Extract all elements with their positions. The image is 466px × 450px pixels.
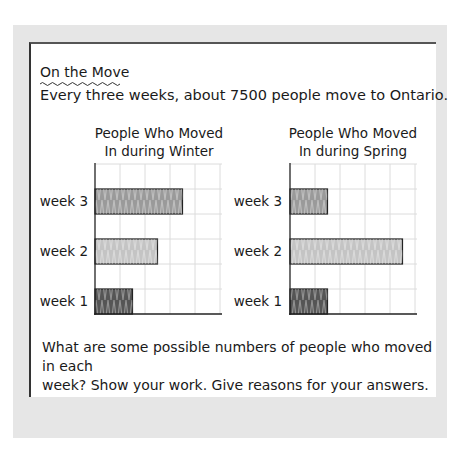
spring-bar-week1 — [290, 289, 328, 314]
winter-bar-week1 — [95, 289, 133, 314]
spring-bar-week2 — [290, 239, 403, 264]
problem-question: What are some possible numbers of people… — [42, 338, 442, 395]
winter-bar-week2 — [95, 239, 158, 264]
question-line1: What are some possible numbers of people… — [42, 338, 442, 376]
spring-bar-week3 — [290, 189, 328, 214]
winter-bar-week3 — [95, 189, 183, 214]
question-line2: week? Show your work. Give reasons for y… — [42, 376, 442, 395]
